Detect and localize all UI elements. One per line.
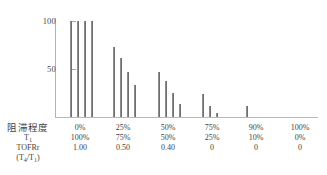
label-cell-t1: 50% xyxy=(146,133,190,143)
bar xyxy=(202,94,204,117)
row-header-column: 阻滞程度 T1 TOFRr (T4/T1) xyxy=(2,122,54,164)
bar-series-container xyxy=(0,0,327,122)
bar xyxy=(91,21,93,117)
label-cell-t1: 25% xyxy=(190,133,234,143)
bar xyxy=(179,104,181,117)
label-cell-tofr: 1.00 xyxy=(58,143,102,153)
bar xyxy=(209,106,211,117)
label-cell-tofr: 0.40 xyxy=(146,143,190,153)
bar xyxy=(172,93,174,117)
label-column: 90%10%0 xyxy=(234,122,278,154)
bar xyxy=(70,21,72,117)
bar xyxy=(120,58,122,117)
bar xyxy=(113,47,115,117)
label-cell-block: 75% xyxy=(190,123,234,133)
bar xyxy=(84,21,86,117)
label-column: 25%75%0.50 xyxy=(101,122,145,154)
label-cell-tofr: 0.50 xyxy=(101,143,145,153)
label-cell-tofr: 0 xyxy=(278,143,322,153)
bar xyxy=(134,85,136,117)
label-cell-t1: 75% xyxy=(101,133,145,143)
tof-bar-chart-figure: 100 50 阻滞程度 T1 TOFRr (T4/T1) 0%100%1.002… xyxy=(0,0,327,175)
label-cell-block: 90% xyxy=(234,123,278,133)
bar xyxy=(158,72,160,117)
label-cell-t1: 0% xyxy=(278,133,322,143)
label-cell-t1: 10% xyxy=(234,133,278,143)
row-label-t1: T1 xyxy=(2,133,54,143)
bar xyxy=(165,81,167,117)
label-column: 100%0%0 xyxy=(278,122,322,154)
bar xyxy=(77,21,79,117)
label-cell-block: 50% xyxy=(146,123,190,133)
row-label-ratio: (T4/T1) xyxy=(2,153,54,163)
label-cell-block: 0% xyxy=(58,123,102,133)
label-cell-tofr: 0 xyxy=(190,143,234,153)
plot-area: 100 50 xyxy=(0,0,327,122)
bar xyxy=(127,72,129,117)
x-axis-label-table: 阻滞程度 T1 TOFRr (T4/T1) 0%100%1.0025%75%0.… xyxy=(0,120,327,175)
row-label-tofr: TOFRr xyxy=(2,143,54,153)
bar xyxy=(216,113,218,117)
bar xyxy=(246,106,248,117)
label-cell-tofr: 0 xyxy=(234,143,278,153)
row-label-block-degree: 阻滞程度 xyxy=(2,122,54,133)
label-column: 75%25%0 xyxy=(190,122,234,154)
label-cell-block: 100% xyxy=(278,123,322,133)
label-cell-t1: 100% xyxy=(58,133,102,143)
label-cell-block: 25% xyxy=(101,123,145,133)
label-column: 50%50%0.40 xyxy=(146,122,190,154)
label-column: 0%100%1.00 xyxy=(58,122,102,154)
